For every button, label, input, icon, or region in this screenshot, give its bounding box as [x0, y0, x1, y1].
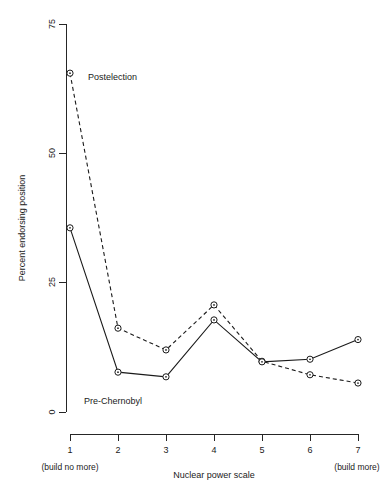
- x-tick-label-6: 6: [307, 445, 312, 455]
- data-point-center: [309, 358, 311, 360]
- x-tick-label-2: 2: [115, 445, 120, 455]
- y-tick-label-75: 75: [47, 19, 57, 29]
- x-axis-title: Nuclear power scale: [173, 470, 255, 480]
- series-postelection-line: [70, 73, 358, 383]
- y-tick-label-50: 50: [47, 148, 57, 158]
- data-point-center: [117, 371, 119, 373]
- data-point-center: [213, 319, 215, 321]
- data-point-center: [261, 361, 263, 363]
- x-tick-label-4: 4: [211, 445, 216, 455]
- data-point-center: [357, 382, 359, 384]
- x-tick-label-5: 5: [259, 445, 264, 455]
- x-tick-label-3: 3: [163, 445, 168, 455]
- data-point-center: [309, 374, 311, 376]
- y-axis-title: Percent endorsing position: [17, 175, 27, 282]
- data-point-center: [213, 304, 215, 306]
- data-point-center: [117, 327, 119, 329]
- chart-figure: 75 50 25 0 Percent endorsing position 1 …: [0, 0, 386, 488]
- data-point-center: [357, 339, 359, 341]
- y-tick-label-0: 0: [47, 409, 57, 414]
- y-tick-label-25: 25: [47, 277, 57, 287]
- annotation-postelection: Postelection: [88, 72, 137, 82]
- data-point-center: [165, 376, 167, 378]
- data-point-center: [69, 227, 71, 229]
- data-point-center: [69, 72, 71, 74]
- x-axis-left-note: (build no more): [41, 462, 98, 472]
- x-axis-right-note: (build more): [334, 462, 380, 472]
- x-tick-label-1: 1: [67, 445, 72, 455]
- x-tick-label-7: 7: [355, 445, 360, 455]
- line-chart-svg: 75 50 25 0 Percent endorsing position 1 …: [0, 0, 386, 488]
- series-postelection-markers: [67, 70, 361, 386]
- data-point-center: [165, 349, 167, 351]
- annotation-pre-chernobyl: Pre-Chernobyl: [84, 396, 142, 406]
